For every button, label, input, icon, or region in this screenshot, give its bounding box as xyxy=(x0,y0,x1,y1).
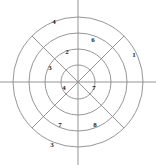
sector-label: 3 xyxy=(48,65,52,72)
sector-label: 4 xyxy=(52,19,56,26)
sector-label: 7 xyxy=(58,122,62,129)
polar-grid-svg xyxy=(0,0,156,165)
sector-label: 7 xyxy=(92,85,96,92)
sector-label: 2 xyxy=(65,49,69,56)
polar-sector-diagram: 4 6 1 2 3 4 7 7 8 3 xyxy=(0,0,156,165)
sector-label: 4 xyxy=(62,85,66,92)
sector-label: 3 xyxy=(50,142,54,149)
sector-label: 8 xyxy=(93,122,97,129)
sector-label: 6 xyxy=(91,37,95,44)
sector-label: 1 xyxy=(132,52,136,59)
